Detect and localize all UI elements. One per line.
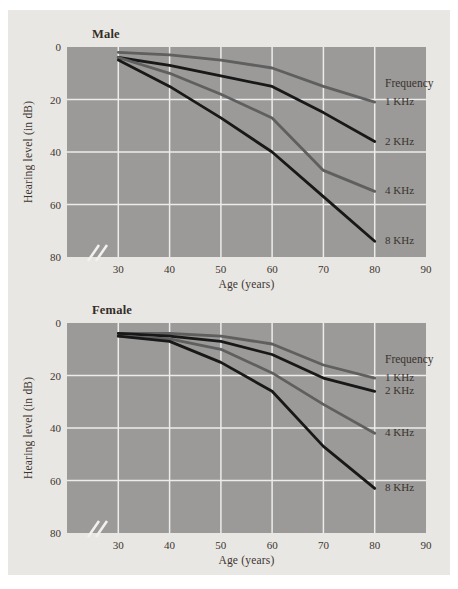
figure-panel: Male Hearing level (in dB) 020406080 Fre… [8,10,450,575]
x-tick-label: 80 [369,263,380,275]
x-tick-label: 80 [369,539,380,551]
y-tick-label: 60 [50,475,61,487]
chart-male: Male Hearing level (in dB) 020406080 Fre… [8,20,450,296]
y-axis-tick-labels: 020406080 [8,323,63,533]
y-tick-label: 40 [50,146,61,158]
y-axis-tick-labels: 020406080 [8,47,63,257]
y-tick-label: 40 [50,422,61,434]
x-tick-label: 70 [318,263,329,275]
y-tick-label: 0 [56,41,62,53]
y-tick-label: 20 [50,94,61,106]
x-tick-label: 60 [267,263,278,275]
x-axis-tick-labels: 30405060708090 [67,539,426,553]
plot-area: Frequency 1 KHz2 KHz4 KHz8 KHz [67,47,426,257]
x-tick-label: 60 [267,539,278,551]
chart-title: Female [92,303,132,318]
x-tick-label: 40 [164,263,175,275]
x-axis-label: Age (years) [67,554,426,566]
x-tick-label: 70 [318,539,329,551]
x-tick-label: 50 [215,539,226,551]
y-tick-label: 60 [50,199,61,211]
x-axis-label: Age (years) [67,278,426,290]
y-tick-label: 20 [50,370,61,382]
x-tick-label: 40 [164,539,175,551]
series-line-1-khz [118,52,374,102]
x-tick-label: 50 [215,263,226,275]
chart-title: Male [92,27,120,42]
x-tick-label: 30 [113,539,124,551]
chart-canvas [67,323,426,533]
series-line-4-khz [118,336,374,433]
series-line-4-khz [118,58,374,192]
chart-female: Female Hearing level (in dB) 020406080 F… [8,296,450,572]
x-tick-label: 90 [421,539,432,551]
x-tick-label: 30 [113,263,124,275]
x-axis-tick-labels: 30405060708090 [67,263,426,277]
chart-canvas [67,47,426,257]
y-tick-label: 80 [50,251,61,263]
y-tick-label: 80 [50,527,61,539]
y-tick-label: 0 [56,317,62,329]
x-tick-label: 90 [421,263,432,275]
series-line-8-khz [118,60,374,241]
textbook-figure-page: { "figure": { "panel_color": "#e9e7e3", … [0,0,458,589]
plot-area: Frequency 1 KHz2 KHz4 KHz8 KHz [67,323,426,533]
